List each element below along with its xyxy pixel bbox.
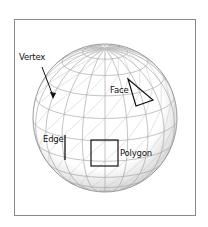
face-label: Face <box>110 85 128 95</box>
vertex-label: Vertex <box>19 52 45 62</box>
mesh-sphere <box>0 0 208 227</box>
edge-label: Edge <box>43 134 64 144</box>
polygon-label: Polygon <box>120 148 152 158</box>
